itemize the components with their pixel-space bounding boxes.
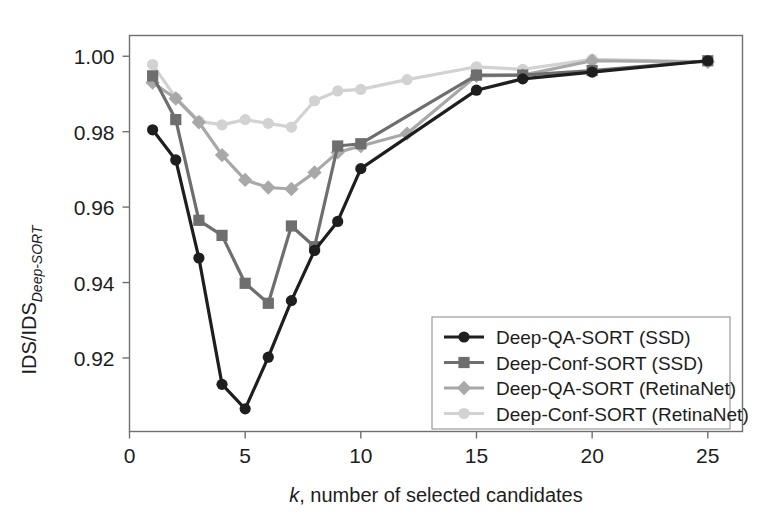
legend-label: Deep-Conf-SORT (SSD) xyxy=(496,353,703,374)
data-point-marker xyxy=(355,163,366,174)
data-point-marker xyxy=(458,331,469,342)
data-point-marker xyxy=(286,122,297,133)
data-point-marker xyxy=(355,138,366,149)
data-point-marker xyxy=(263,118,274,129)
legend-layer: Deep-QA-SORT (SSD)Deep-Conf-SORT (SSD)De… xyxy=(432,317,749,429)
data-point-marker xyxy=(286,295,297,306)
data-point-marker xyxy=(147,59,158,70)
chart-figure: 05101520250.920.940.960.981.00 Deep-QA-S… xyxy=(0,0,777,524)
data-point-marker xyxy=(332,216,343,227)
data-point-marker xyxy=(471,85,482,96)
data-point-marker xyxy=(587,66,598,77)
data-point-marker xyxy=(332,140,343,151)
x-axis-title: k, number of selected candidates xyxy=(289,484,583,506)
data-point-marker xyxy=(263,352,274,363)
x-axis-title-rest: , number of selected candidates xyxy=(299,484,583,506)
legend-label: Deep-QA-SORT (SSD) xyxy=(496,327,691,348)
data-point-marker xyxy=(263,298,274,309)
data-point-marker xyxy=(147,124,158,135)
x-tick-label: 20 xyxy=(580,444,603,467)
data-point-marker xyxy=(147,70,158,81)
data-point-marker xyxy=(517,73,528,84)
data-point-marker xyxy=(170,114,181,125)
x-tick-label: 10 xyxy=(349,444,372,467)
data-point-marker xyxy=(240,278,251,289)
chart-background xyxy=(0,0,777,524)
x-tick-label: 25 xyxy=(696,444,719,467)
y-tick-label: 0.98 xyxy=(74,121,115,144)
x-tick-label: 5 xyxy=(239,444,251,467)
data-point-marker xyxy=(216,230,227,241)
data-point-marker xyxy=(240,403,251,414)
legend-label: Deep-Conf-SORT (RetinaNet) xyxy=(496,404,749,425)
data-point-marker xyxy=(702,55,713,66)
svg-text:k, number of selected candidat: k, number of selected candidates xyxy=(289,484,583,506)
y-axis-title-main: IDS/IDS xyxy=(18,302,40,374)
data-point-marker xyxy=(193,215,204,226)
y-tick-label: 0.94 xyxy=(74,272,115,295)
data-point-marker xyxy=(332,85,343,96)
data-point-marker xyxy=(458,357,469,368)
data-point-marker xyxy=(170,154,181,165)
data-point-marker xyxy=(193,252,204,263)
y-tick-label: 0.96 xyxy=(74,196,115,219)
data-point-marker xyxy=(216,119,227,130)
data-point-marker xyxy=(471,70,482,81)
y-tick-label: 1.00 xyxy=(74,45,115,68)
y-axis-title-subscript: Deep-SORT xyxy=(29,224,45,302)
data-point-marker xyxy=(309,245,320,256)
x-tick-label: 15 xyxy=(465,444,488,467)
data-point-marker xyxy=(355,84,366,95)
line-chart: 05101520250.920.940.960.981.00 Deep-QA-S… xyxy=(0,0,777,524)
x-tick-label: 0 xyxy=(124,444,136,467)
data-point-marker xyxy=(286,220,297,231)
legend-label: Deep-QA-SORT (RetinaNet) xyxy=(496,378,736,399)
data-point-marker xyxy=(240,114,251,125)
y-tick-label: 0.92 xyxy=(74,347,115,370)
data-point-marker xyxy=(216,379,227,390)
data-point-marker xyxy=(458,408,469,419)
data-point-marker xyxy=(309,95,320,106)
data-point-marker xyxy=(401,74,412,85)
